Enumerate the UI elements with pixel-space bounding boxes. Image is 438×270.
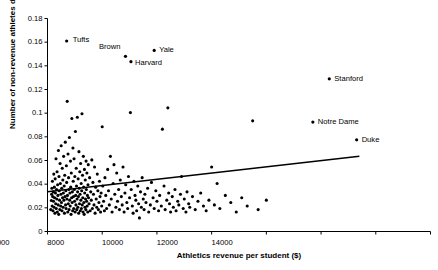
data-point	[137, 202, 140, 205]
data-point	[117, 188, 120, 191]
data-point	[62, 191, 65, 194]
data-point	[63, 174, 66, 177]
data-point	[69, 213, 72, 216]
data-point	[84, 178, 87, 181]
data-point	[64, 203, 67, 206]
data-point	[74, 130, 77, 133]
data-point	[79, 162, 82, 165]
data-point	[92, 203, 95, 206]
data-point	[78, 170, 81, 173]
data-point	[172, 206, 175, 209]
data-point	[57, 213, 60, 216]
data-point	[126, 207, 129, 210]
data-point	[167, 191, 170, 194]
x-tick-label: 8000	[47, 239, 64, 247]
data-point	[53, 186, 56, 189]
data-point	[139, 190, 142, 193]
data-point	[176, 200, 179, 203]
data-point	[119, 178, 122, 181]
data-point	[121, 165, 124, 168]
data-point	[161, 128, 164, 131]
data-point	[99, 210, 102, 213]
data-point	[213, 203, 216, 206]
data-point	[65, 164, 68, 167]
data-point	[146, 187, 149, 190]
data-point	[191, 195, 194, 198]
data-point-labeled	[328, 77, 331, 80]
data-point-labeled	[65, 39, 68, 42]
data-point	[100, 205, 103, 208]
data-point	[104, 194, 107, 197]
data-point-labeled	[124, 55, 127, 58]
data-point	[61, 178, 64, 181]
data-point	[110, 197, 113, 200]
data-point	[118, 208, 121, 211]
scatter-chart-figure: 00.020.040.060.080.10.120.140.160.180200…	[0, 0, 438, 270]
data-point	[57, 149, 60, 152]
y-tick-label: 0.06	[28, 157, 43, 165]
data-point	[147, 210, 150, 213]
data-point	[152, 196, 155, 199]
data-point	[69, 205, 72, 208]
data-point	[127, 175, 130, 178]
data-point	[138, 216, 141, 219]
data-point	[141, 176, 144, 179]
data-point	[187, 202, 190, 205]
data-point-labeled	[129, 60, 132, 63]
data-point	[69, 160, 72, 163]
data-point	[177, 203, 180, 206]
data-point	[55, 207, 58, 210]
x-axis-label: Athletics revenue per student ($)	[177, 252, 301, 260]
data-point	[87, 163, 90, 166]
data-point	[62, 155, 65, 158]
data-point	[62, 199, 65, 202]
data-point	[173, 188, 176, 191]
data-point	[175, 209, 178, 212]
y-tick-label: 0.08	[28, 133, 43, 141]
data-point	[91, 207, 94, 210]
data-point	[74, 194, 77, 197]
data-point	[89, 190, 92, 193]
data-point	[83, 168, 86, 171]
point-label: Yale	[159, 46, 174, 54]
data-point	[106, 168, 109, 171]
data-point	[88, 202, 91, 205]
data-point	[210, 165, 213, 168]
data-point	[185, 190, 188, 193]
data-point	[199, 191, 202, 194]
data-point	[85, 160, 88, 163]
data-point	[89, 209, 92, 212]
data-point	[51, 180, 54, 183]
data-point	[56, 194, 59, 197]
data-point	[68, 136, 71, 139]
data-point	[113, 193, 116, 196]
data-point	[76, 116, 79, 119]
data-point	[63, 184, 66, 187]
data-point	[257, 208, 260, 211]
data-point	[103, 176, 106, 179]
data-point	[80, 207, 83, 210]
data-point	[54, 177, 57, 180]
data-point-labeled	[153, 49, 156, 52]
data-point	[73, 175, 76, 178]
data-point	[251, 119, 254, 122]
data-point	[142, 197, 145, 200]
data-point	[91, 181, 94, 184]
data-point	[103, 209, 106, 212]
data-point	[111, 210, 114, 213]
data-point	[57, 175, 60, 178]
data-point	[108, 203, 111, 206]
data-point	[169, 210, 172, 213]
data-point	[54, 191, 57, 194]
data-point	[90, 158, 93, 161]
x-tick-label: 6000	[0, 239, 10, 247]
data-point	[77, 150, 80, 153]
data-point	[85, 200, 88, 203]
data-point	[71, 147, 74, 150]
data-point	[83, 191, 86, 194]
data-point	[97, 201, 100, 204]
data-point	[65, 181, 68, 184]
data-point	[218, 207, 221, 210]
data-point	[72, 180, 75, 183]
data-point	[196, 200, 199, 203]
